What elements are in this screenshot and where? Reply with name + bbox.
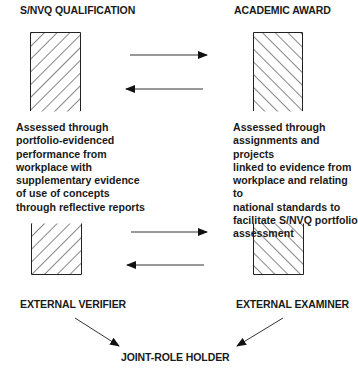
external-verifier-box [32, 224, 82, 275]
external-examiner-label: EXTERNAL EXAMINER [236, 298, 349, 310]
snvq-qualification-title: S/NVQ QUALIFICATION [20, 4, 135, 16]
academic-assessment-description: Assessed through assignments and project… [233, 121, 358, 241]
academic-award-title: ACADEMIC AWARD [234, 4, 331, 16]
snvq-assessment-description: Assessed through portfolio-evidenced per… [16, 121, 145, 214]
joint-role-holder-label: JOINT-ROLE HOLDER [121, 351, 230, 363]
external-verifier-label: EXTERNAL VERIFIER [20, 298, 126, 310]
snvq-qualification-box [31, 33, 81, 112]
verifier-to-joint-arrow [75, 318, 119, 346]
academic-award-box [254, 33, 303, 112]
examiner-to-joint-arrow [237, 318, 283, 346]
